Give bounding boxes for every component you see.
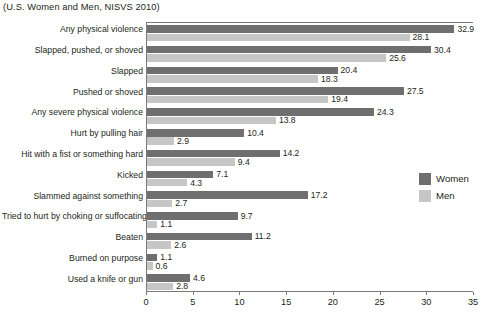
bar-women [147,171,213,179]
category-label: Used a knife or gun [2,275,146,284]
bar-value-label: 7.1 [216,170,228,179]
bar-women [147,191,308,199]
legend-item[interactable]: Women [419,171,489,186]
bar-group: 27.519.4 [147,85,473,106]
legend-item[interactable]: Men [419,188,489,203]
x-tick-label: 15 [281,297,291,307]
bar-value-label: 13.8 [279,116,296,125]
bar-value-label: 32.9 [457,25,474,34]
bar-women [147,233,252,241]
bar-group: 20.418.3 [147,65,473,86]
bar-value-label: 0.6 [156,262,168,271]
category-label: Slapped, pushed, or shoved [2,46,146,55]
x-tick-label: 5 [190,297,195,307]
bar-value-label: 17.2 [311,191,328,200]
bar-value-label: 9.4 [238,158,250,167]
category-label: Slammed against something [2,192,146,201]
bar-men [147,34,410,42]
bar-value-label: 14.2 [283,149,300,158]
x-tick-mark [333,292,334,295]
bar-women [147,25,454,33]
x-tick-mark [239,292,240,295]
bar-value-label: 2.7 [175,199,187,208]
bar-value-label: 28.1 [413,33,430,42]
bar-value-label: 4.6 [193,274,205,283]
bar-value-label: 1.1 [160,220,172,229]
bar-group: 4.62.8 [147,272,473,293]
x-tick-label: 20 [328,297,338,307]
bar-value-label: 27.5 [407,87,424,96]
bar-value-label: 2.6 [174,241,186,250]
x-tick-label: 25 [374,297,384,307]
legend-label: Women [436,173,469,184]
x-tick-label: 10 [234,297,244,307]
bar-group: 10.42.9 [147,127,473,148]
bar-men [147,54,386,62]
x-tick-label: 30 [421,297,431,307]
bar-women [147,108,374,116]
bar-value-label: 4.3 [190,179,202,188]
bar-value-label: 19.4 [331,95,348,104]
category-label: Hit with a fist or something hard [2,150,146,159]
x-tick-mark [426,292,427,295]
bar-men [147,75,318,83]
bar-men [147,96,328,104]
x-tick-mark [380,292,381,295]
bar-group: 1.10.6 [147,251,473,272]
bar-women [147,129,244,137]
legend-label: Men [436,190,455,201]
bar-value-label: 9.7 [241,212,253,221]
bar-chart: (U.S. Women and Men, NISVS 2010) Any phy… [0,0,490,319]
category-label: Slapped [2,67,146,76]
category-label: Any physical violence [2,25,146,34]
bar-group: 32.928.1 [147,23,473,44]
bar-value-label: 2.9 [177,137,189,146]
bar-value-label: 2.8 [176,282,188,291]
bar-men [147,158,235,166]
category-label: Hurt by pulling hair [2,129,146,138]
bar-men [147,241,171,249]
bar-value-label: 25.6 [389,54,406,63]
bar-men [147,221,157,229]
bar-value-label: 24.3 [377,108,394,117]
x-tick-mark [286,292,287,295]
bar-value-label: 11.2 [255,232,271,241]
bar-men [147,117,276,125]
category-label: Kicked [2,171,146,180]
bar-women [147,87,404,95]
category-label: Any severe physical violence [2,108,146,117]
category-label: Burned on purpose [2,254,146,263]
bar-value-label: 30.4 [434,46,451,55]
bar-men [147,283,173,291]
bar-value-label: 10.4 [247,129,264,138]
bar-value-label: 20.4 [341,66,358,75]
x-tick-label: 35 [468,297,478,307]
category-label: Beaten [2,233,146,242]
x-axis: 05101520253035 [146,292,473,316]
category-label: Pushed or shoved [2,88,146,97]
bar-rows: 32.928.130.425.620.418.327.519.424.313.8… [147,23,473,291]
bar-men [147,200,172,208]
plot-area: 32.928.130.425.620.418.327.519.424.313.8… [146,22,473,292]
bar-group: 9.71.1 [147,210,473,231]
bar-group: 24.313.8 [147,106,473,127]
x-tick-mark [193,292,194,295]
bar-women [147,67,338,75]
bar-value-label: 18.3 [321,75,338,84]
bar-men [147,262,153,270]
x-tick-mark [146,292,147,295]
chart-legend: WomenMen [419,171,489,205]
chart-subtitle: (U.S. Women and Men, NISVS 2010) [3,2,160,12]
category-label: Tried to hurt by choking or suffocating [2,212,146,221]
bar-women [147,150,280,158]
legend-swatch-icon [419,190,431,202]
bar-group: 11.22.6 [147,231,473,252]
bar-group: 14.29.4 [147,148,473,169]
bar-men [147,179,187,187]
category-axis-labels: Any physical violenceSlapped, pushed, or… [0,22,146,292]
x-tick-mark [473,292,474,295]
legend-swatch-icon [419,173,431,185]
bar-men [147,137,174,145]
x-tick-label: 0 [143,297,148,307]
bar-group: 30.425.6 [147,44,473,65]
